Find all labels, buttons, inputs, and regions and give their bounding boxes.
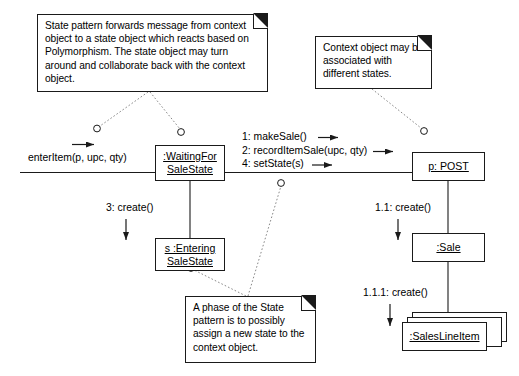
note-anchor-circle-phase-upper bbox=[278, 180, 285, 187]
object-waiting-for-sale-state-line2: SaleState bbox=[167, 163, 213, 176]
note-fold-corner-icon bbox=[253, 14, 268, 29]
object-waiting-for-sale-state: :WaitingFor SaleState bbox=[155, 145, 225, 181]
note-leader-phase-lower bbox=[194, 270, 246, 296]
message-create-sale: 1.1: create() bbox=[375, 201, 431, 214]
object-post: p: POST bbox=[412, 152, 485, 181]
note-fold-corner-icon bbox=[301, 296, 316, 311]
object-sale: :Sale bbox=[412, 233, 485, 262]
note-state-pattern-text: State pattern forwards message from cont… bbox=[38, 15, 267, 89]
object-sale-line1: :Sale bbox=[436, 241, 460, 254]
note-fold-corner-icon bbox=[417, 36, 432, 51]
message-record-item-sale: 2: recordItemSale(upc, qty) bbox=[242, 144, 367, 158]
object-entering-sale-state: s :Entering SaleState bbox=[155, 238, 225, 271]
message-create-entering-state: 3: create() bbox=[106, 201, 153, 214]
object-entering-sale-state-line2: SaleState bbox=[167, 255, 213, 268]
note-anchor-circle-context-object bbox=[421, 128, 428, 135]
note-context-object: Context object may be associated with di… bbox=[315, 36, 432, 89]
message-set-state: 4: setState(s) bbox=[242, 157, 367, 171]
object-post-line1: p: POST bbox=[428, 160, 469, 173]
message-enter-item-text: enterItem(p, upc, qty) bbox=[28, 152, 127, 163]
note-leader-phase-upper bbox=[248, 186, 281, 296]
note-leader-context-object bbox=[372, 89, 421, 128]
message-group-post: 1: makeSale() 2: recordItemSale(upc, qty… bbox=[242, 130, 367, 171]
note-anchor-circle-state-pattern-right bbox=[178, 129, 185, 136]
message-create-sale-text: 1.1: create() bbox=[375, 202, 431, 213]
message-create-sales-line-item: 1.1.1: create() bbox=[363, 286, 428, 299]
object-sales-line-item-line1: :SalesLineItem bbox=[409, 330, 479, 343]
note-leader-state-pattern-right bbox=[150, 92, 180, 129]
note-anchor-circle-state-pattern-left bbox=[94, 125, 101, 132]
message-make-sale: 1: makeSale() bbox=[242, 130, 367, 144]
message-enter-item: enterItem(p, upc, qty) bbox=[28, 151, 127, 164]
object-sales-line-item: :SalesLineItem bbox=[402, 322, 487, 351]
message-create-entering-state-text: 3: create() bbox=[106, 202, 153, 213]
object-waiting-for-sale-state-line1: :WaitingFor bbox=[163, 150, 217, 163]
note-phase-of-state: A phase of the State pattern is to possi… bbox=[185, 296, 316, 363]
object-entering-sale-state-line1: s :Entering bbox=[165, 242, 216, 255]
note-phase-of-state-text: A phase of the State pattern is to possi… bbox=[186, 297, 315, 358]
note-context-object-text: Context object may be associated with di… bbox=[316, 37, 431, 85]
note-state-pattern: State pattern forwards message from cont… bbox=[37, 14, 268, 92]
message-create-sales-line-item-text: 1.1.1: create() bbox=[363, 287, 428, 298]
note-leader-state-pattern-left bbox=[100, 92, 148, 126]
uml-communication-diagram: State pattern forwards message from cont… bbox=[0, 0, 519, 376]
